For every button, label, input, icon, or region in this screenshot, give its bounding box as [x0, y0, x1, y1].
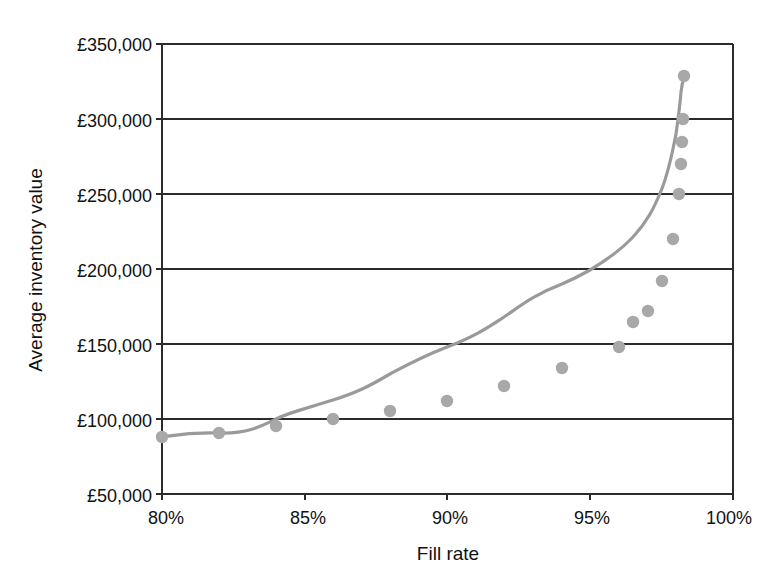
data-point-98-5	[642, 305, 654, 317]
data-point-99-2	[656, 275, 668, 287]
x-tick-label-90: 90%	[432, 508, 468, 528]
y-tick-label-200000: £200,000	[77, 261, 152, 281]
data-point-80	[156, 431, 168, 443]
data-point-98	[627, 316, 639, 328]
x-tick-label-95: 95%	[574, 508, 610, 528]
y-tick-label-300000: £300,000	[77, 111, 152, 131]
data-point-82	[213, 427, 225, 439]
data-point-90	[441, 395, 453, 407]
y-tick-label-100000: £100,000	[77, 411, 152, 431]
inventory-fill-rate-chart: £350,000 £300,000 £250,000 £200,000 £150…	[0, 0, 765, 586]
y-tick-label-50000: £50,000	[87, 486, 152, 506]
data-point-88	[384, 405, 396, 417]
data-point-84	[270, 420, 282, 432]
x-axis-title: Fill rate	[417, 543, 479, 564]
chart-figure: £350,000 £300,000 £250,000 £200,000 £150…	[0, 0, 765, 586]
data-point-99-7	[673, 188, 685, 200]
x-tick-label-85: 85%	[290, 508, 326, 528]
y-tick-label-350000: £350,000	[77, 35, 152, 55]
data-point-94	[556, 362, 568, 374]
data-point-99-95	[678, 70, 690, 82]
data-point-96	[613, 341, 625, 353]
x-tick-label-80: 80%	[148, 508, 184, 528]
data-point-99-5	[667, 233, 679, 245]
data-point-92	[498, 380, 510, 392]
data-point-86	[327, 413, 339, 425]
y-tick-label-250000: £250,000	[77, 186, 152, 206]
y-tick-label-150000: £150,000	[77, 336, 152, 356]
x-tick-label-100: 100%	[706, 508, 752, 528]
y-axis-title: Average inventory value	[25, 168, 46, 372]
data-point-99-9	[677, 113, 689, 125]
data-point-99-85	[676, 136, 688, 148]
data-point-99-8	[675, 158, 687, 170]
